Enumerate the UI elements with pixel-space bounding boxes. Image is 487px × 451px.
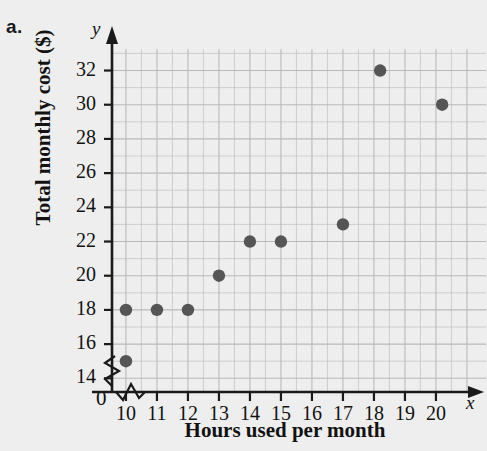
gridlines: [112, 49, 486, 392]
data-point: [436, 99, 448, 111]
data-point: [182, 304, 194, 316]
scatter-plot-figure: a. Total monthly cost ($) Hours used per…: [0, 0, 487, 451]
data-point: [337, 218, 349, 230]
data-point: [151, 304, 163, 316]
data-point: [374, 64, 386, 76]
data-point: [244, 235, 256, 247]
axis-ticks: [104, 71, 436, 401]
plot-canvas: [0, 0, 487, 451]
data-point: [120, 304, 132, 316]
data-points: [120, 64, 449, 367]
axis-lines: [92, 26, 484, 398]
data-point: [275, 235, 287, 247]
data-point: [120, 355, 132, 367]
data-point: [213, 270, 225, 282]
